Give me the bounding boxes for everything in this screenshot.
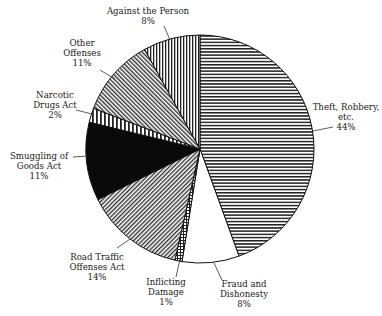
- leader-fraud: [214, 263, 222, 280]
- label-line: Narcotic: [36, 90, 74, 100]
- label-fraud-and-dishonesty: Fraud and Dishonesty 8%: [220, 279, 268, 309]
- label-line: Drugs Act: [33, 100, 77, 110]
- label-theft-robbery: Theft, Robbery, etc. 44%: [313, 102, 380, 132]
- leader-other: [100, 70, 115, 79]
- label-line: Fraud and: [221, 279, 267, 289]
- leader-narcotic: [76, 110, 92, 114]
- label-pct: 8%: [237, 299, 251, 309]
- label-pct: 11%: [29, 171, 48, 181]
- label-pct: 44%: [336, 122, 355, 132]
- label-smuggling-of-goods-act: Smuggling of Goods Act 11%: [10, 151, 69, 181]
- leader-person: [164, 26, 170, 40]
- label-line: etc.: [338, 112, 354, 122]
- label-line: Road Traffic: [70, 252, 124, 262]
- leader-inflicting: [176, 259, 180, 277]
- label-line: Dishonesty: [220, 289, 268, 299]
- pie-chart: Against the Person 8% Other Offenses 11%…: [0, 0, 382, 316]
- label-pct: 1%: [159, 297, 173, 307]
- label-pct: 11%: [72, 58, 91, 68]
- label-line: Goods Act: [17, 161, 62, 171]
- leader-road: [117, 239, 130, 248]
- label-line: Offenses Act: [70, 262, 125, 272]
- label-line: Theft, Robbery,: [313, 102, 380, 112]
- label-line: Damage: [148, 287, 184, 297]
- label-inflicting-damage: Inflicting Damage 1%: [146, 277, 186, 307]
- label-narcotic-drugs-act: Narcotic Drugs Act 2%: [33, 90, 77, 120]
- label-pct: 14%: [87, 272, 106, 282]
- label-other-offenses: Other Offenses 11%: [63, 38, 101, 68]
- label-line: Other: [69, 38, 95, 48]
- pie-slices: [86, 35, 314, 263]
- leader-theft: [313, 127, 333, 131]
- label-line: Inflicting: [146, 277, 186, 287]
- label-line: Against the Person: [106, 6, 190, 16]
- label-line: Smuggling of: [10, 151, 69, 161]
- label-line: Offenses: [63, 48, 101, 58]
- label-against-the-person: Against the Person 8%: [106, 6, 190, 26]
- leader-smuggling: [73, 156, 87, 157]
- label-road-traffic-offenses-act: Road Traffic Offenses Act 14%: [70, 252, 125, 282]
- label-pct: 8%: [141, 16, 155, 26]
- label-pct: 2%: [48, 110, 62, 120]
